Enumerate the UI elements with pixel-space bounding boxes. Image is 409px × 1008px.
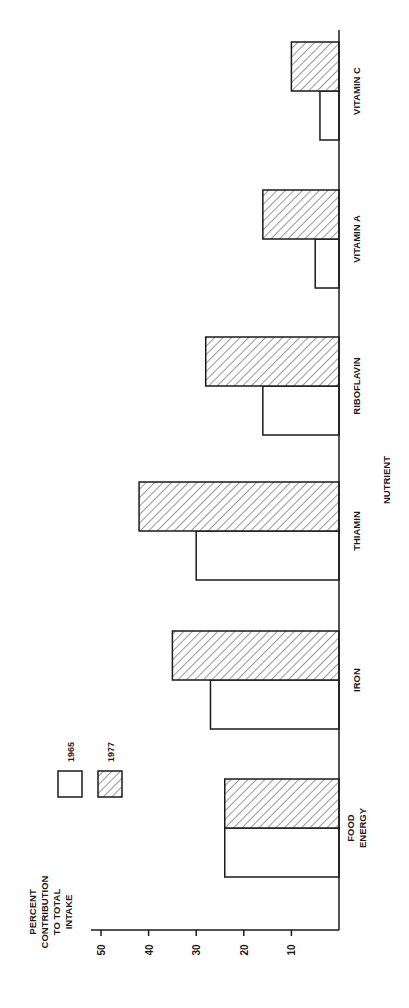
legend-swatch-1977 xyxy=(98,771,122,797)
x-axis-title: NUTRIENT xyxy=(381,456,392,504)
bar-1965 xyxy=(263,386,339,435)
bar-1965 xyxy=(315,239,339,288)
bar-1965 xyxy=(225,828,339,877)
bars-group xyxy=(139,42,339,877)
bar-1977 xyxy=(225,779,339,828)
legend: 19651977 xyxy=(58,742,122,797)
category-label: IRON xyxy=(351,668,362,692)
category-label: VITAMIN C xyxy=(351,67,362,115)
legend-swatch-1965 xyxy=(58,771,82,797)
tick-label: 50 xyxy=(96,944,107,956)
y-axis-title: TO TOTAL xyxy=(51,889,62,936)
bar-1977 xyxy=(263,190,339,239)
legend-label: 1977 xyxy=(106,742,116,762)
category-label: THIAMIN xyxy=(351,511,362,551)
category-label: ENERGY xyxy=(357,807,368,848)
y-axis-title: INTAKE xyxy=(63,895,74,930)
bar-1977 xyxy=(206,337,339,386)
legend-label: 1965 xyxy=(66,742,76,762)
bar-1965 xyxy=(320,91,339,140)
tick-label: 10 xyxy=(286,944,297,956)
bar-1965 xyxy=(196,531,339,580)
bar-chart: 1020304050 FOODENERGYIRONTHIAMINRIBOFLAV… xyxy=(0,0,409,1008)
bar-1977 xyxy=(172,631,339,680)
tick-label: 30 xyxy=(191,944,202,956)
bar-1977 xyxy=(139,482,339,531)
y-axis-title: CONTRIBUTION xyxy=(39,875,50,948)
category-label: VITAMIN A xyxy=(351,215,362,263)
tick-label: 40 xyxy=(144,944,155,956)
category-label: RIBOFLAVIN xyxy=(351,357,362,414)
category-label: FOOD xyxy=(345,814,356,842)
tick-label: 20 xyxy=(239,944,250,956)
bar-1977 xyxy=(291,42,339,91)
bar-1965 xyxy=(210,680,339,729)
y-axis-title: PERCENT xyxy=(27,889,38,935)
